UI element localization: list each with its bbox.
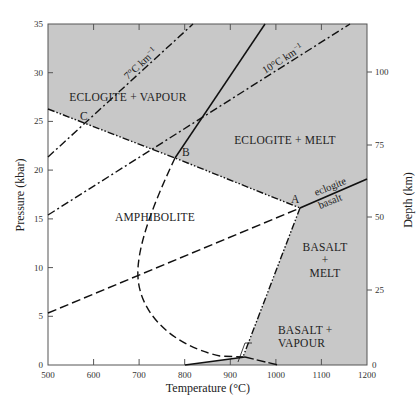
x-tick-900: 900 (224, 370, 238, 380)
y-tick-10: 10 (34, 263, 44, 273)
x-tick-800: 800 (178, 370, 192, 380)
label-basalt-melt-3: MELT (309, 267, 340, 279)
y2-tick-50: 50 (375, 212, 385, 222)
y-tick-30: 30 (34, 68, 44, 78)
label-basalt-vapour-2: VAPOUR (278, 337, 325, 349)
x-tick-1200: 1200 (358, 370, 377, 380)
x-tick-500: 500 (41, 370, 55, 380)
y2-tick-0: 0 (372, 360, 377, 370)
x-tick-1100: 1100 (313, 370, 331, 380)
y-axis-title: Pressure (kbar) (13, 159, 27, 232)
label-eclogite-melt: ECLOGITE + MELT (234, 134, 336, 146)
y-tick-0: 0 (39, 360, 44, 370)
y-tick-15: 15 (34, 214, 44, 224)
point-B-label: B (182, 146, 190, 158)
label-basalt-melt-2: + (322, 254, 329, 266)
x-tick-600: 600 (87, 370, 101, 380)
label-eclogite-vapour: ECLOGITE + VAPOUR (69, 91, 187, 103)
point-C-label: C (80, 110, 88, 122)
point-A-label: A (291, 193, 300, 205)
y-tick-labels: 0 5 10 15 20 25 30 35 (34, 19, 44, 370)
x-tick-labels: 500 600 700 800 900 1000 1100 1200 (41, 370, 376, 380)
label-basalt-vapour-1: BASALT + (278, 324, 332, 336)
dashed-line-to-A (48, 208, 300, 313)
x-tick-1000: 1000 (267, 370, 286, 380)
y-tick-5: 5 (39, 311, 44, 321)
label-basalt-melt-1: BASALT (303, 241, 348, 253)
y-tick-20: 20 (34, 165, 44, 175)
phase-diagram: 500 600 700 800 900 1000 1100 1200 0 5 1… (0, 0, 420, 417)
y2-tick-75: 75 (375, 140, 385, 150)
amphibolite-boundary-curve (138, 158, 243, 357)
label-amphibolite: AMPHIBOLITE (115, 211, 195, 223)
y-tick-35: 35 (34, 19, 44, 29)
y2-tick-labels: 0 25 50 75 100 (372, 67, 389, 370)
x-axis-title: Temperature (°C) (166, 381, 250, 395)
x-tick-700: 700 (132, 370, 146, 380)
y2-tick-25: 25 (375, 285, 385, 295)
y2-tick-100: 100 (375, 67, 389, 77)
y2-ticks (367, 72, 372, 290)
y-tick-25: 25 (34, 116, 44, 126)
y2-axis-title: Depth (km) (401, 172, 415, 228)
